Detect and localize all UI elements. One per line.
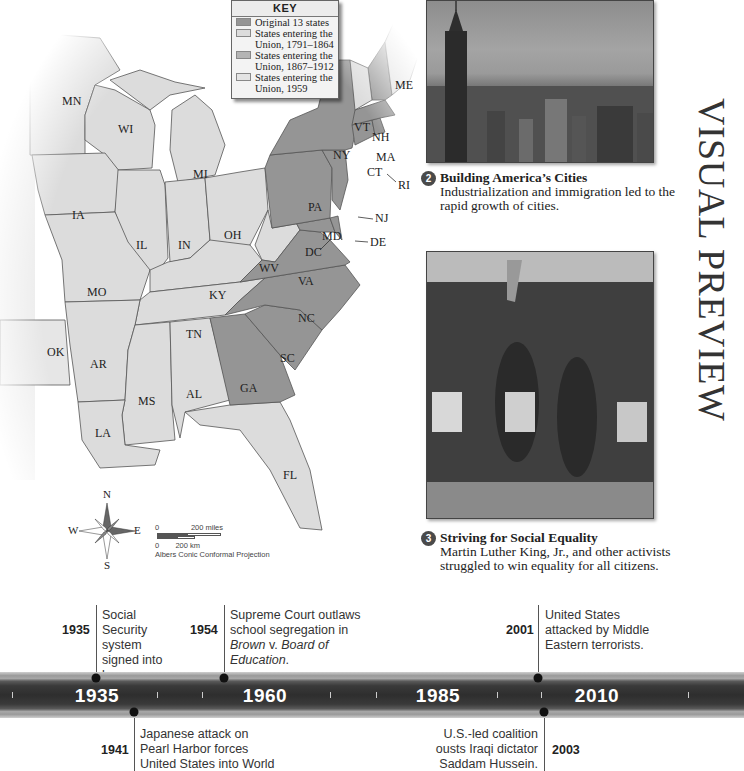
event-marker (92, 674, 101, 683)
svg-text:RI: RI (398, 178, 410, 192)
map-graphic: MN WI MI IA IL IN OH MO KY WV VA TN NC S… (0, 0, 420, 600)
event-marker (130, 708, 139, 717)
feature-caption-cities: 2 Building America’s Cities Industrializ… (440, 171, 680, 213)
svg-text:TN: TN (186, 327, 202, 341)
section-title-vertical: VISUAL PREVIEW (690, 98, 734, 421)
key-item-1867-1912: States entering the Union, 1867–1912 (232, 50, 338, 72)
map-key: KEY Original 13 states States entering t… (231, 0, 339, 99)
key-title: KEY (232, 1, 338, 17)
svg-text:MS: MS (138, 394, 155, 408)
svg-text:ME: ME (395, 78, 413, 92)
swatch-1959 (236, 73, 251, 81)
number-badge: 2 (421, 171, 436, 186)
svg-text:NH: NH (372, 130, 390, 144)
svg-text:MI: MI (193, 167, 208, 181)
svg-text:VT: VT (354, 120, 371, 134)
svg-text:MA: MA (376, 150, 396, 164)
key-item-1791-1864: States entering the Union, 1791–1864 (232, 28, 338, 50)
swatch-original (236, 18, 251, 26)
svg-text:IA: IA (72, 208, 85, 222)
feature-text: Martin Luther King, Jr., and other activ… (440, 545, 690, 573)
us-statehood-map: MN WI MI IA IL IN OH MO KY WV VA TN NC S… (0, 0, 420, 600)
svg-text:WV: WV (259, 261, 279, 275)
event-text-brown-v-board: Supreme Court outlaws school segregation… (230, 608, 380, 668)
svg-text:DE: DE (370, 235, 386, 249)
era-label: 2010 (575, 685, 619, 707)
svg-text:MN: MN (62, 94, 82, 108)
svg-text:AL: AL (186, 387, 202, 401)
photo-civil-rights-march (426, 251, 654, 519)
svg-text:OH: OH (224, 228, 242, 242)
swatch-1867-1912 (236, 51, 251, 59)
svg-text:VA: VA (298, 274, 314, 288)
timeline-bar: 1935 1960 1985 2010 (0, 672, 744, 718)
svg-text:NY: NY (333, 148, 351, 162)
svg-text:GA: GA (240, 381, 258, 395)
svg-text:IL: IL (136, 238, 147, 252)
feature-title: Striving for Social Equality (440, 531, 690, 545)
event-year: 1941 (101, 743, 129, 757)
event-year: 2003 (552, 743, 580, 757)
svg-text:NJ: NJ (375, 211, 389, 225)
svg-text:CT: CT (367, 165, 383, 179)
svg-text:KY: KY (209, 288, 227, 302)
svg-text:NC: NC (298, 311, 315, 325)
feature-text: Industrialization and immigration led to… (440, 185, 680, 213)
feature-caption-equality: 3 Striving for Social Equality Martin Lu… (440, 531, 690, 573)
map-scale: 0200 miles 0200 km Albers Conic Conforma… (155, 523, 275, 559)
era-label: 1935 (75, 685, 119, 707)
key-item-original-13: Original 13 states (232, 17, 338, 28)
event-text: United States attacked by Middle Eastern… (545, 608, 665, 653)
svg-text:LA: LA (95, 426, 111, 440)
svg-text:MO: MO (87, 285, 107, 299)
number-badge: 3 (421, 531, 436, 546)
event-text: Japanese attack on Pearl Harbor forces U… (140, 727, 280, 771)
svg-text:SC: SC (280, 351, 295, 365)
svg-text:IN: IN (178, 238, 191, 252)
event-year: 1954 (190, 623, 218, 637)
scale-bar (157, 533, 221, 540)
projection-label: Albers Conic Conformal Projection (155, 550, 275, 559)
era-label: 1985 (416, 685, 460, 707)
svg-text:OK: OK (47, 345, 65, 359)
compass-rose-icon: N S E W (70, 491, 140, 571)
event-marker (540, 708, 549, 717)
svg-text:PA: PA (308, 200, 323, 214)
event-year: 1935 (62, 623, 90, 637)
event-marker (220, 674, 229, 683)
swatch-1791-1864 (236, 29, 251, 37)
svg-text:FL: FL (283, 468, 297, 482)
photo-city-skyline (426, 0, 654, 163)
timeline: 1935 Social Security system signed into … (0, 605, 744, 771)
key-item-1959: States entering the Union, 1959 (232, 72, 338, 98)
era-label: 1960 (243, 685, 287, 707)
svg-text:AR: AR (90, 357, 107, 371)
svg-text:MD: MD (322, 229, 342, 243)
svg-text:WI: WI (118, 122, 133, 136)
event-marker (534, 674, 543, 683)
event-year: 2001 (506, 623, 534, 637)
svg-text:DC: DC (305, 245, 322, 259)
feature-title: Building America’s Cities (440, 171, 680, 185)
event-text: U.S.-led coalition ousts Iraqi dictator … (418, 727, 538, 771)
